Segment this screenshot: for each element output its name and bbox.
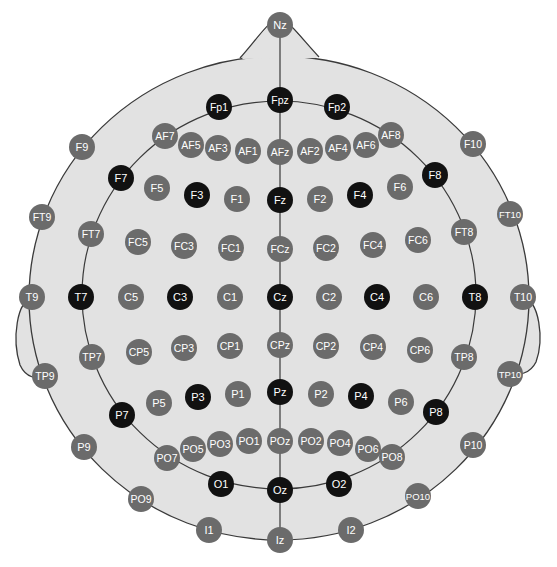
electrode-iz: Iz [267,527,293,553]
electrode-f9: F9 [69,134,95,160]
electrode-label: C5 [124,291,138,303]
electrode-label: TP7 [82,351,101,363]
electrode-label: Fpz [271,94,289,106]
electrode-label: PO3 [209,438,230,450]
electrode-label: T9 [26,291,39,303]
electrode-label: CP4 [363,341,384,353]
electrode-af6: AF6 [353,132,379,158]
electrode-i1: I1 [196,517,222,543]
electrode-label: F2 [314,193,327,205]
electrode-label: Pz [274,386,287,398]
electrode-oz: Oz [267,477,293,503]
electrode-label: PO6 [357,443,378,455]
electrode-af1: AF1 [235,138,261,164]
electrode-t8: T8 [462,284,488,310]
electrode-af5: AF5 [178,132,204,158]
electrode-fc6: FC6 [405,227,431,253]
electrode-p1: P1 [225,381,251,407]
electrode-label: Fp1 [210,101,228,113]
electrode-label: Oz [273,484,287,496]
electrode-fc4: FC4 [360,232,386,258]
electrode-ft8: FT8 [451,219,477,245]
electrode-label: TP9 [35,370,54,382]
electrode-po10: PO10 [405,483,431,509]
electrode-c1: C1 [217,284,243,310]
electrode-label: CP5 [129,346,150,358]
electrode-label: FC4 [363,239,383,251]
electrode-label: FT7 [82,228,101,240]
electrode-cpz: CPz [267,332,293,358]
electrode-ft10: FT10 [497,201,523,227]
eeg-electrode-diagram: NzFpzFp1Fp2AF7AF5AF3AF1AFzAF2AF4AF6AF8F9… [0,0,557,567]
electrode-cp6: CP6 [407,337,433,363]
electrode-cp2: CP2 [313,333,339,359]
electrode-po8: PO8 [379,444,405,470]
electrode-label: AF4 [328,142,347,154]
electrode-label: F6 [394,181,407,193]
electrode-label: T7 [75,291,88,303]
electrode-f8: F8 [422,162,448,188]
electrode-label: FCz [270,243,289,255]
electrode-label: P7 [115,409,128,421]
electrode-t9: T9 [19,284,45,310]
electrode-label: P1 [231,388,244,400]
electrode-label: FT10 [499,209,521,220]
electrode-label: I1 [204,524,213,536]
electrode-label: PO9 [130,493,151,505]
electrode-tp8: TP8 [451,344,477,370]
electrode-label: Cz [273,291,286,303]
electrode-f4: F4 [347,182,373,208]
electrode-label: CP2 [316,340,337,352]
electrode-label: AF6 [356,139,375,151]
electrode-f6: F6 [387,174,413,200]
electrode-label: P4 [354,390,367,402]
electrode-label: PO8 [381,451,402,463]
electrode-label: Fz [274,194,286,206]
electrode-po7: PO7 [154,445,180,471]
electrode-afz: AFz [267,139,293,165]
electrode-po1: PO1 [236,428,262,454]
electrode-po6: PO6 [355,436,381,462]
head-map: NzFpzFp1Fp2AF7AF5AF3AF1AFzAF2AF4AF6AF8F9… [0,0,557,567]
electrode-af3: AF3 [205,135,231,161]
electrode-tp9: TP9 [32,363,58,389]
electrode-p4: P4 [348,383,374,409]
electrode-label: CP1 [220,340,241,352]
electrode-p8: P8 [423,399,449,425]
electrode-label: PO10 [406,491,430,502]
electrode-label: O2 [332,478,347,490]
electrode-p10: P10 [460,432,486,458]
electrode-label: P5 [152,397,165,409]
electrode-t7: T7 [68,284,94,310]
electrode-label: F3 [191,189,204,201]
electrode-cp4: CP4 [360,334,386,360]
electrode-ft7: FT7 [78,221,104,247]
electrode-p9: P9 [71,434,97,460]
electrode-label: P2 [314,388,327,400]
electrode-label: FC5 [128,236,148,248]
electrode-fc3: FC3 [171,233,197,259]
electrode-pz: Pz [267,379,293,405]
electrode-label: F5 [151,182,164,194]
electrode-label: P3 [191,391,204,403]
electrode-fc1: FC1 [218,235,244,261]
electrode-label: F10 [464,138,482,150]
electrode-p6: P6 [388,389,414,415]
electrode-po2: PO2 [298,428,324,454]
electrode-f1: F1 [224,186,250,212]
electrode-label: CPz [270,339,290,351]
electrode-label: FC2 [316,242,336,254]
electrode-label: C6 [419,291,433,303]
electrode-label: F1 [231,193,244,205]
electrode-label: P6 [394,396,407,408]
electrode-o1: O1 [208,471,234,497]
electrode-label: PO4 [329,437,350,449]
electrode-f5: F5 [144,175,170,201]
electrode-p7: P7 [109,402,135,428]
electrode-label: Fp2 [328,101,346,113]
electrode-label: FT8 [455,226,474,238]
electrode-af7: AF7 [152,123,178,149]
electrode-label: P9 [77,441,90,453]
electrode-cp1: CP1 [217,333,243,359]
electrode-c2: C2 [316,284,342,310]
